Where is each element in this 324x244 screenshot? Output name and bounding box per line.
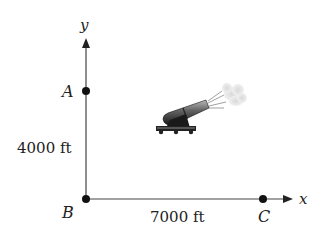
x-axis-arrow-icon: [283, 195, 293, 203]
cannon-icon: [156, 83, 247, 134]
point-b-label: B: [61, 203, 74, 222]
blast-lines: [208, 91, 226, 108]
point-b-marker: [82, 195, 90, 203]
smoke-cloud: [222, 83, 247, 106]
point-a-label: A: [60, 82, 74, 101]
vertical-distance-label: 4000 ft: [17, 139, 72, 157]
y-axis: [82, 38, 90, 199]
horizontal-distance-label: 7000 ft: [150, 208, 205, 226]
y-axis-arrow-icon: [82, 38, 90, 48]
point-a-marker: [82, 87, 90, 95]
point-c-marker: [259, 195, 267, 203]
y-axis-label: y: [79, 16, 89, 34]
point-c-label: C: [258, 207, 270, 226]
x-axis-label: x: [299, 190, 308, 208]
diagram-canvas: y x A B C 4000 ft 7000 ft: [0, 0, 324, 244]
